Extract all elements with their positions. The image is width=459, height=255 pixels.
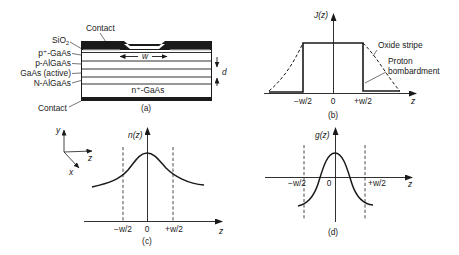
contact-bottom-label: Contact	[38, 103, 68, 113]
n-z-curve	[92, 153, 204, 187]
svg-text:+w/2: +w/2	[165, 224, 183, 234]
svg-text:−w/2: −w/2	[114, 224, 132, 234]
svg-text:n(z): n(z)	[128, 130, 143, 140]
svg-text:bombardment: bombardment	[388, 66, 440, 76]
svg-text:g(z): g(z)	[315, 130, 330, 140]
thickness-indicator: d	[217, 57, 227, 86]
n-algaas-label: N-AlGaAs	[34, 78, 71, 88]
substrate-label: n⁺-GaAs	[132, 85, 165, 95]
svg-text:0: 0	[145, 224, 150, 234]
svg-text:y: y	[55, 125, 61, 135]
svg-text:z: z	[410, 96, 416, 106]
svg-text:+w/2: +w/2	[368, 178, 386, 188]
svg-text:−w/2: −w/2	[288, 178, 306, 188]
svg-text:z: z	[218, 226, 224, 236]
panel-d-gain: g(z) z −w/2 0 +w/2 (d)	[265, 128, 413, 237]
svg-text:J(z): J(z)	[313, 10, 328, 20]
p-plus-gaas-label: p⁺-GaAs	[38, 48, 71, 58]
p-algaas-label: p-AlGaAs	[35, 58, 71, 68]
sio2-layer	[83, 50, 120, 51]
sio2-label: SiO2	[52, 35, 69, 46]
svg-text:+w/2: +w/2	[354, 96, 372, 106]
gaas-active-label: GaAs (active)	[20, 68, 71, 78]
svg-text:z: z	[87, 153, 93, 163]
svg-text:x: x	[68, 167, 74, 177]
oxide-stripe-label: Oxide stripe	[378, 40, 423, 50]
svg-text:d: d	[222, 67, 227, 77]
panel-b-current-density: J(z) z −w/2 0 +w/2 Oxide stripe Proton b…	[264, 10, 440, 120]
panel-c-caption: (c)	[142, 236, 152, 246]
proton-label: Proton	[388, 56, 413, 66]
bottom-contact	[81, 97, 212, 101]
svg-text:0: 0	[331, 96, 336, 106]
proton-bombardment-curve	[269, 43, 400, 92]
panel-c-refractive-index: y z x n(z) z −w/2 0 +w/2 (c)	[55, 125, 224, 246]
svg-text:−w/2: −w/2	[294, 96, 312, 106]
panel-d-caption: (d)	[328, 227, 338, 237]
coordinate-axes-icon: y z x	[55, 125, 93, 177]
svg-text:z: z	[407, 179, 413, 189]
oxide-stripe-curve	[269, 43, 303, 91]
svg-text:w: w	[142, 51, 149, 61]
stripe-laser-figure: n⁺-GaAs w d Contact SiO2 p⁺-GaAs p-AlGaA…	[0, 0, 459, 255]
panel-b-caption: (b)	[328, 110, 338, 120]
panel-a-caption: (a)	[141, 103, 151, 113]
panel-a-device-cross-section: n⁺-GaAs w d Contact SiO2 p⁺-GaAs p-AlGaA…	[20, 23, 227, 113]
svg-text:0: 0	[327, 178, 332, 188]
contact-top-label: Contact	[86, 23, 116, 33]
